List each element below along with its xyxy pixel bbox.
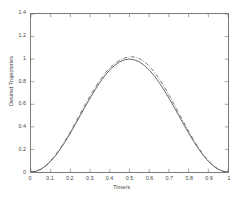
x-tick-label: 0.1 xyxy=(46,176,54,181)
x-tick-label: 0.5 xyxy=(126,176,134,181)
curve-trajectory-solid xyxy=(31,59,228,172)
x-tick-label: 0.2 xyxy=(66,176,74,181)
y-tick-label: 0 xyxy=(0,170,26,175)
x-tick-label: 0.9 xyxy=(205,176,213,181)
x-tick-label: 1 xyxy=(228,176,231,181)
plot-canvas xyxy=(31,14,228,172)
x-tick-label: 0.8 xyxy=(185,176,193,181)
x-axis-title: Time/s xyxy=(0,184,243,190)
chart-figure: 00.20.40.60.811.21.4 00.10.20.30.40.50.6… xyxy=(0,0,243,198)
y-axis-title: Desired Trajectories xyxy=(8,33,14,129)
y-tick-label: 0.2 xyxy=(0,147,26,152)
curve-trajectory-dashdot xyxy=(31,57,228,172)
y-tick-label: 1.4 xyxy=(0,10,26,15)
plot-area xyxy=(30,13,229,173)
data-curves xyxy=(31,57,228,172)
x-tick-label: 0.3 xyxy=(86,176,94,181)
x-tick-label: 0.6 xyxy=(146,176,154,181)
x-tick-label: 0.7 xyxy=(166,176,174,181)
x-tick-label: 0.4 xyxy=(106,176,114,181)
x-tick-label: 0 xyxy=(29,176,32,181)
